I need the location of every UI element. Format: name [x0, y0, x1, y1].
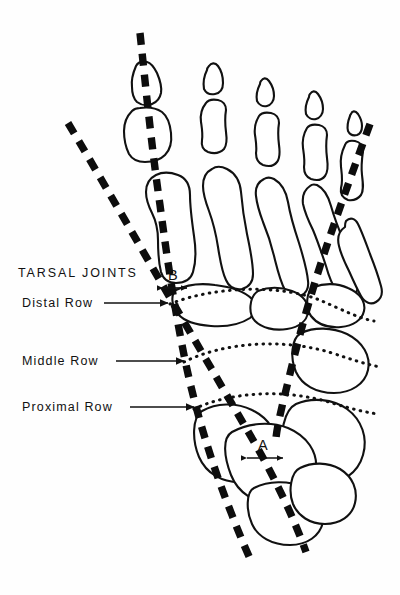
label-distal-row: Distal Row [22, 296, 93, 310]
bone-toe2-middle-phalanx [201, 100, 227, 153]
bone-toe4-middle-phalanx [303, 125, 328, 180]
bone-metatarsal-2 [203, 167, 253, 289]
tarsal-joints-diagram: TARSAL JOINTS Distal Row Middle Row Prox… [0, 0, 400, 595]
bone-toe3-distal-phalanx [257, 78, 274, 106]
label-tarsal-joints: TARSAL JOINTS [18, 266, 138, 280]
bone-toe5-distal-phalanx [348, 111, 362, 135]
bone-tarsal-proximal-5 [291, 464, 356, 524]
bone-toe3-middle-phalanx [255, 113, 280, 166]
label-marker-a: A [258, 437, 268, 453]
bone-toe2-distal-phalanx [204, 63, 223, 94]
label-proximal-row: Proximal Row [22, 400, 113, 414]
label-marker-b: B [168, 267, 178, 283]
bone-hallux-proximal-phalanx [124, 108, 171, 162]
bone-metatarsal-3 [256, 178, 308, 297]
bone-toe4-distal-phalanx [306, 91, 323, 119]
label-middle-row: Middle Row [22, 354, 99, 368]
